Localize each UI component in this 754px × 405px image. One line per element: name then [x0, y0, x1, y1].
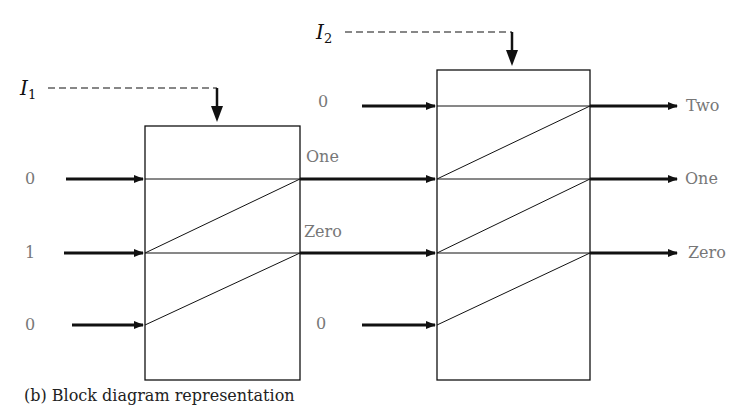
- output-label-two: Two: [686, 98, 719, 114]
- control-label-i2: I2: [316, 22, 332, 49]
- output-label-zero: Zero: [688, 245, 726, 261]
- stage1-input-label: 0: [25, 171, 35, 187]
- stage1-input-label: 0: [25, 317, 35, 333]
- arrow-down-icon: [506, 50, 518, 66]
- control-line-i1: [48, 88, 223, 122]
- stage1-output-label-zero: Zero: [304, 224, 342, 240]
- stage1-output-label-one: One: [306, 149, 339, 165]
- control-label-i1: I1: [20, 78, 36, 105]
- stage2-input-label: 0: [318, 94, 328, 110]
- stage1-block: [145, 126, 300, 380]
- figure-caption: (b) Block diagram representation: [24, 386, 295, 405]
- arrow-down-icon: [211, 106, 223, 122]
- stage1-input-label: 1: [25, 245, 35, 261]
- control-line-i2: [345, 32, 518, 66]
- output-label-one: One: [685, 171, 718, 187]
- stage2-block: [437, 70, 590, 380]
- stage2-input-label: 0: [316, 316, 326, 332]
